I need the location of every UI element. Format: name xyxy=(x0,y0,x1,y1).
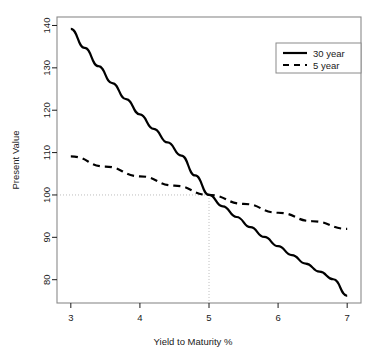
y-tick-label: 120 xyxy=(41,102,52,118)
x-tick-label: 5 xyxy=(206,312,211,323)
legend: 30 year 5 year xyxy=(276,43,361,73)
x-tick-label: 3 xyxy=(68,312,73,323)
chart-container: 8090100110120130140 34567 Yield to Matur… xyxy=(0,0,386,363)
x-tick-label: 7 xyxy=(345,312,350,323)
y-tick-label: 130 xyxy=(41,60,52,76)
y-axis-title: Present Value xyxy=(10,131,21,190)
legend-label-5-year: 5 year xyxy=(313,60,339,71)
present-value-vs-yield-chart: 8090100110120130140 34567 Yield to Matur… xyxy=(0,0,386,363)
y-tick-label: 140 xyxy=(41,18,52,34)
y-tick-label: 100 xyxy=(41,187,52,203)
x-tick-label: 4 xyxy=(137,312,142,323)
y-tick-label: 80 xyxy=(41,274,52,285)
x-axis-title: Yield to Maturity % xyxy=(154,336,233,347)
y-tick-label: 90 xyxy=(41,232,52,243)
y-tick-label: 110 xyxy=(41,145,52,160)
x-tick-label: 6 xyxy=(275,312,280,323)
legend-label-30-year: 30 year xyxy=(313,48,345,59)
